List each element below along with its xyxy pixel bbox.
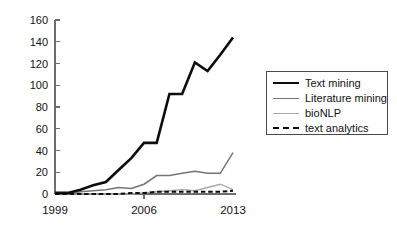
legend-label: Literature mining [305, 93, 387, 104]
x-tick-label: 2013 [220, 204, 246, 216]
legend-item-text-mining: Text mining [267, 76, 387, 91]
y-tick-label: 140 [30, 36, 48, 48]
x-tick-label: 1999 [42, 204, 68, 216]
legend-item-literature-mining: Literature mining [267, 91, 387, 106]
legend-item-bionlp: bioNLP [267, 106, 387, 121]
y-tick-label: 100 [30, 79, 48, 91]
series-line-text-mining [55, 37, 233, 193]
legend-label: Text mining [305, 78, 361, 89]
chart-legend: Text mining Literature mining bioNLP tex… [266, 71, 388, 135]
y-tick-label: 160 [30, 14, 48, 26]
x-tick-label: 2006 [131, 204, 157, 216]
legend-item-text-analytics: text analytics [267, 121, 387, 136]
y-tick-label: 0 [42, 188, 48, 200]
y-tick-label: 60 [36, 123, 48, 135]
y-axis-tick-labels: 020406080100120140160 [30, 14, 48, 200]
legend-line-swatch-icon [273, 78, 299, 90]
y-axis-tick-marks [55, 20, 60, 194]
legend-label: bioNLP [305, 108, 341, 119]
y-tick-label: 80 [36, 101, 48, 113]
x-axis-tick-labels: 199920062013 [42, 204, 246, 216]
y-tick-label: 120 [30, 58, 48, 70]
y-tick-label: 40 [36, 145, 48, 157]
legend-line-swatch-icon [273, 108, 299, 120]
line-chart: 020406080100120140160 199920062013 Text … [0, 0, 397, 232]
legend-dashed-line-swatch-icon [273, 123, 299, 135]
legend-line-swatch-icon [273, 93, 299, 105]
y-tick-label: 20 [36, 166, 48, 178]
series-layer [55, 37, 233, 194]
legend-label: text analytics [305, 123, 369, 134]
